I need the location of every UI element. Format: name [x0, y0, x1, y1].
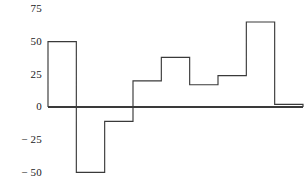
step-bar-chart: 75 50 25 0 − 25 − 50 [0, 0, 308, 189]
step-outline-path [48, 22, 303, 172]
chart-screenshot: 75 50 25 0 − 25 − 50 [0, 0, 308, 189]
plot-area [0, 0, 308, 189]
